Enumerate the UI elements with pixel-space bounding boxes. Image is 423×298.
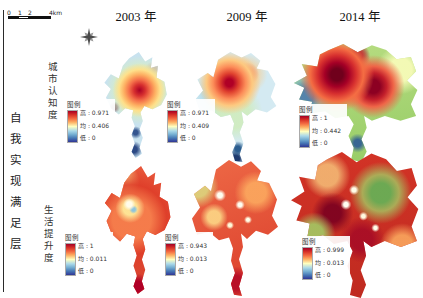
legend-title: 图例 bbox=[302, 236, 350, 246]
legend-title: 图例 bbox=[165, 232, 213, 242]
legend-high-value: 高 : 1 bbox=[312, 115, 341, 121]
scale-bar-label-4km: 4km bbox=[49, 9, 62, 16]
legend-life-2009: 图例 高 : 0.943 均 : 0.013 低 : 0 bbox=[165, 232, 213, 276]
legend-low-value: 低 : 0 bbox=[78, 268, 107, 274]
compass-rose-icon bbox=[80, 28, 98, 46]
column-title-2003: 2003 年 bbox=[91, 6, 181, 25]
legend-high-value: 高 : 0.971 bbox=[180, 110, 209, 116]
scale-bar-segment bbox=[18, 16, 29, 19]
legend-colorbar bbox=[67, 110, 78, 143]
legend-mean-value: 均 : 0.406 bbox=[80, 123, 109, 129]
legend-colorbar bbox=[65, 243, 76, 276]
legend-colorbar bbox=[165, 243, 176, 276]
legend-high-value: 高 : 0.943 bbox=[178, 243, 207, 249]
scale-bar-label-0: 0 bbox=[7, 9, 11, 16]
scale-bar-segment bbox=[8, 16, 18, 19]
legend-mean-value: 均 : 0.442 bbox=[312, 128, 341, 134]
legend-low-value: 低 : 0 bbox=[180, 135, 209, 141]
legend-colorbar bbox=[167, 110, 178, 143]
legend-low-value: 低 : 0 bbox=[178, 268, 207, 274]
legend-mean-value: 均 : 0.011 bbox=[78, 256, 107, 262]
scale-bar-segment bbox=[29, 16, 51, 19]
legend-title: 图例 bbox=[65, 232, 113, 242]
column-title-2009: 2009 年 bbox=[202, 6, 292, 25]
legend-mean-value: 均 : 0.409 bbox=[180, 123, 209, 129]
legend-colorbar bbox=[299, 115, 310, 148]
scale-bar-segments bbox=[7, 16, 63, 19]
scale-bar-label-1: 1 bbox=[18, 9, 22, 16]
legend-cognition-2014: 图例 高 : 1 均 : 0.442 低 : 0 bbox=[299, 104, 347, 148]
legend-colorbar bbox=[302, 247, 313, 280]
column-title-2014: 2014 年 bbox=[315, 6, 405, 25]
row-label-life-improvement: 生活提升度 bbox=[41, 205, 55, 265]
scale-bar: 0 1 2 4km bbox=[7, 9, 63, 21]
legend-high-value: 高 : 0.999 bbox=[315, 247, 344, 253]
legend-title: 图例 bbox=[167, 99, 215, 109]
scale-bar-labels: 0 1 2 4km bbox=[7, 9, 63, 15]
legend-cognition-2003: 图例 高 : 0.971 均 : 0.406 低 : 0 bbox=[67, 99, 115, 143]
figure-root: 0 1 2 4km 2003 年 2009 年 2014 年 自我实现满足层 城… bbox=[0, 0, 423, 298]
legend-low-value: 低 : 0 bbox=[315, 272, 344, 278]
legend-mean-value: 均 : 0.013 bbox=[178, 256, 207, 262]
left-border-line bbox=[3, 10, 4, 292]
legend-low-value: 低 : 0 bbox=[312, 140, 341, 146]
legend-title: 图例 bbox=[67, 99, 115, 109]
legend-cognition-2009: 图例 高 : 0.971 均 : 0.409 低 : 0 bbox=[167, 99, 215, 143]
legend-life-2003: 图例 高 : 1 均 : 0.011 低 : 0 bbox=[65, 232, 113, 276]
scale-bar-label-2: 2 bbox=[28, 9, 32, 16]
legend-life-2014: 图例 高 : 0.999 均 : 0.013 低 : 0 bbox=[302, 236, 350, 280]
legend-title: 图例 bbox=[299, 104, 347, 114]
row-label-urban-cognition: 城市认知度 bbox=[45, 62, 59, 122]
legend-low-value: 低 : 0 bbox=[80, 135, 109, 141]
legend-mean-value: 均 : 0.013 bbox=[315, 260, 344, 266]
legend-high-value: 高 : 1 bbox=[78, 243, 107, 249]
legend-high-value: 高 : 0.971 bbox=[80, 110, 109, 116]
side-label-self-actualization: 自我实现满足层 bbox=[7, 112, 23, 259]
